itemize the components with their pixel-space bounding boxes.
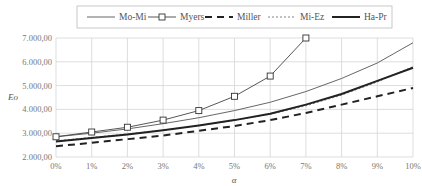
square-marker-icon	[53, 134, 59, 140]
square-marker-icon	[232, 93, 238, 99]
square-marker-icon	[124, 124, 130, 130]
line-chart: 2.000,003.000,004.000,005.000,006.000,00…	[0, 0, 422, 186]
y-tick-label: 5.000,00	[22, 81, 52, 91]
x-tick-label: 3%	[157, 161, 168, 171]
x-tick-label: 6%	[265, 161, 276, 171]
x-tick-label: 10%	[405, 161, 421, 171]
x-axis-ticks: 0%1%2%3%4%5%6%7%8%9%10%	[50, 161, 420, 171]
square-marker-icon	[303, 35, 309, 41]
x-tick-label: 8%	[336, 161, 347, 171]
square-marker-icon	[267, 73, 273, 79]
x-tick-label: 1%	[86, 161, 97, 171]
series-myers-line	[56, 38, 306, 137]
y-tick-label: 2.000,00	[22, 152, 52, 162]
series-lines	[53, 35, 413, 146]
square-marker-icon	[159, 14, 165, 20]
square-marker-icon	[160, 117, 166, 123]
legend: Mo-MiMyersMillerMi-EzHa-Pr	[77, 6, 392, 28]
x-tick-label: 2%	[122, 161, 133, 171]
legend-label-mi-ez: Mi-Ez	[300, 12, 324, 22]
y-axis-ticks: 2.000,003.000,004.000,005.000,006.000,00…	[22, 33, 52, 162]
x-axis-title: α	[232, 175, 237, 185]
square-marker-icon	[196, 108, 202, 114]
x-tick-label: 5%	[229, 161, 240, 171]
legend-label-ha-pr: Ha-Pr	[364, 12, 388, 22]
x-tick-label: 7%	[300, 161, 311, 171]
x-tick-label: 0%	[50, 161, 61, 171]
legend-label-miller: Miller	[237, 12, 262, 22]
y-tick-label: 7.000,00	[22, 33, 52, 43]
square-marker-icon	[89, 129, 95, 135]
legend-label-mo-mi: Mo-Mi	[119, 12, 147, 22]
y-tick-label: 3.000,00	[22, 128, 52, 138]
x-tick-label: 4%	[193, 161, 204, 171]
y-tick-label: 4.000,00	[22, 104, 52, 114]
legend-label-myers: Myers	[180, 12, 205, 22]
y-tick-label: 6.000,00	[22, 57, 52, 67]
x-tick-label: 9%	[372, 161, 383, 171]
y-axis-title: Eo	[7, 92, 18, 102]
